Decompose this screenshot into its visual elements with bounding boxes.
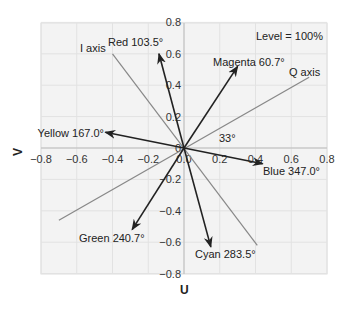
y-tick-label: −0.4 bbox=[159, 205, 181, 217]
y-tick-label: 0.6 bbox=[166, 48, 181, 60]
level-annotation: Level = 100% bbox=[256, 30, 323, 42]
y-tick-label: 0.2 bbox=[166, 111, 181, 123]
x-axis-label: U bbox=[180, 283, 189, 297]
red-label: Red 103.5° bbox=[108, 36, 163, 48]
angle-annotation: 33° bbox=[219, 132, 236, 144]
green-label: Green 240.7° bbox=[79, 232, 145, 244]
y-tick-label: −0.8 bbox=[159, 268, 181, 280]
i-axis-label: I axis bbox=[80, 42, 106, 54]
cyan-label: Cyan 283.5° bbox=[195, 248, 256, 260]
yellow-label: Yellow 167.0° bbox=[38, 127, 104, 139]
y-axis-label: V bbox=[11, 148, 25, 156]
y-tick-label: −0.6 bbox=[159, 236, 181, 248]
y-tick-label: −0.2 bbox=[159, 173, 181, 185]
x-tick-label: −0.2 bbox=[137, 153, 159, 165]
x-tick-label: −0.8 bbox=[30, 153, 52, 165]
blue-label: Blue 347.0° bbox=[263, 165, 320, 177]
x-tick-label: 0.8 bbox=[319, 153, 334, 165]
magenta-label: Magenta 60.7° bbox=[213, 56, 285, 68]
vectorscope-chart: −0.8−0.6−0.4−0.20.00.20.40.60.80.80.60.4… bbox=[0, 0, 347, 310]
q-axis-label: Q axis bbox=[289, 66, 321, 78]
x-tick-label: −0.6 bbox=[66, 153, 88, 165]
y-tick-label: 0.8 bbox=[166, 16, 181, 28]
x-tick-label: −0.4 bbox=[102, 153, 124, 165]
x-tick-label: 0.6 bbox=[284, 153, 299, 165]
